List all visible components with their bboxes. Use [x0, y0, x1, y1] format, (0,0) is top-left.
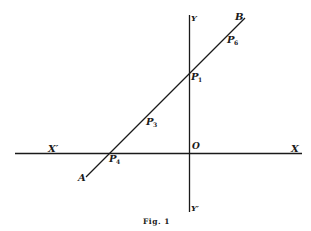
svg-text:1: 1 — [198, 76, 202, 83]
origin-label: O — [192, 141, 200, 151]
figure-caption: Fig. 1 — [143, 217, 170, 226]
svg-text:6: 6 — [234, 39, 238, 46]
coordinate-diagram: Y B P 6 P 1 P 3 X′ O X P 4 A — [0, 0, 311, 231]
svg-text:3: 3 — [153, 121, 157, 128]
svg-text:4: 4 — [116, 158, 120, 165]
y-axis-positive-label: Y — [191, 13, 198, 23]
line-end-label-b: B — [234, 11, 243, 22]
point-p6-label: P 6 — [226, 34, 238, 46]
line-start-label-a: A — [77, 172, 86, 183]
point-p4-label: P 4 — [108, 153, 120, 165]
point-p3-label: P 3 — [145, 116, 157, 128]
x-axis-positive-label: X — [290, 143, 300, 154]
y-axis-negative-label: Y′ — [191, 203, 200, 213]
x-axis-negative-label: X′ — [47, 143, 59, 154]
point-p1-label: P 1 — [190, 71, 202, 83]
